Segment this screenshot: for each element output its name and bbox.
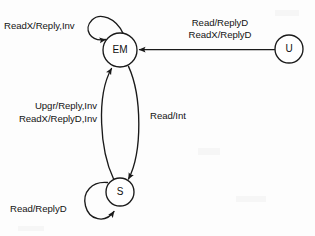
- edge-label-em-self-loop: ReadX/Reply,Inv: [4, 20, 75, 32]
- edge-label-u-to-em-line2: ReadX/ReplyD: [168, 29, 272, 41]
- node-s-label: S: [117, 186, 124, 197]
- edge-label-u-to-em-line1: Read/ReplyD: [168, 17, 272, 29]
- edge-em-to-s: [129, 66, 139, 179]
- state-diagram: EM S U ReadX/Reply,Inv Read/ReplyD ReadX…: [0, 0, 315, 236]
- edge-label-s-to-em-line1: Upgr/Reply,Inv: [0, 100, 97, 112]
- edge-s-to-em: [102, 69, 114, 179]
- edge-label-em-to-s: Read/Int: [150, 110, 186, 122]
- edge-label-s-self-loop: Read/ReplyD: [10, 203, 67, 215]
- edge-label-s-to-em-line2: ReadX/ReplyD,Inv: [0, 113, 97, 125]
- node-em-label: EM: [113, 44, 128, 55]
- node-u-label: U: [285, 43, 292, 54]
